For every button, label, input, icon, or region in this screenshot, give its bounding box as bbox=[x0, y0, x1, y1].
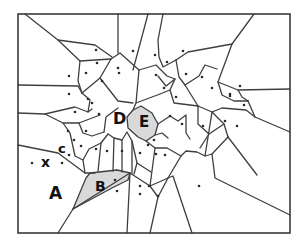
site-point bbox=[157, 195, 160, 198]
voronoi-edge bbox=[122, 132, 132, 173]
voronoi-edge bbox=[45, 114, 100, 123]
voronoi-edge bbox=[100, 78, 133, 103]
site-point bbox=[68, 93, 71, 96]
site-point bbox=[139, 193, 142, 196]
site-point bbox=[117, 67, 120, 70]
site-point bbox=[85, 130, 88, 133]
site-point bbox=[211, 87, 214, 90]
site-point bbox=[74, 111, 77, 114]
voronoi-edge bbox=[79, 123, 104, 136]
site-point bbox=[201, 76, 204, 79]
voronoi-edge bbox=[108, 134, 114, 171]
voronoi-edge bbox=[133, 14, 148, 70]
site-point bbox=[182, 50, 185, 53]
site-point bbox=[67, 130, 70, 133]
site-point bbox=[148, 185, 151, 188]
label-b: B bbox=[95, 178, 106, 194]
site-point bbox=[169, 115, 172, 118]
site-point bbox=[185, 73, 188, 76]
site-point bbox=[91, 102, 94, 105]
voronoi-edge bbox=[18, 85, 82, 93]
voronoi-edge bbox=[228, 137, 257, 175]
site-point bbox=[101, 80, 104, 83]
label-x: x bbox=[41, 154, 50, 170]
site-point bbox=[181, 123, 184, 126]
site-point bbox=[68, 154, 71, 157]
site-point bbox=[139, 152, 142, 155]
site-point bbox=[198, 185, 201, 188]
site-point bbox=[114, 179, 117, 182]
site-point bbox=[164, 154, 167, 157]
voronoi-edge bbox=[218, 44, 248, 101]
site-point bbox=[95, 148, 98, 151]
voronoi-edge bbox=[212, 154, 290, 215]
site-point bbox=[118, 72, 121, 75]
voronoi-edge bbox=[168, 176, 192, 233]
label-a: A bbox=[49, 183, 63, 203]
site-point bbox=[224, 120, 227, 123]
voronoi-edge bbox=[218, 82, 248, 101]
site-point bbox=[132, 50, 135, 53]
voronoi-edge bbox=[83, 134, 108, 160]
label-c: c bbox=[58, 141, 66, 156]
voronoi-edge bbox=[158, 14, 176, 67]
label-e: E bbox=[139, 113, 149, 131]
voronoi-edge bbox=[136, 90, 170, 103]
site-point bbox=[68, 75, 71, 78]
site-point bbox=[166, 61, 169, 64]
site-point bbox=[73, 139, 76, 142]
voronoi-edge bbox=[150, 148, 155, 186]
site-point bbox=[175, 96, 178, 99]
voronoi-edge bbox=[58, 209, 73, 233]
voronoi-edge bbox=[212, 108, 255, 117]
voronoi-edge bbox=[114, 138, 122, 172]
site-point bbox=[239, 85, 242, 88]
site-point bbox=[98, 113, 101, 116]
voronoi-edge bbox=[139, 65, 198, 106]
site-point bbox=[95, 49, 98, 52]
site-point bbox=[229, 95, 232, 98]
site-point bbox=[96, 62, 99, 65]
site-point bbox=[80, 145, 83, 148]
site-point bbox=[87, 98, 90, 101]
voronoi-edge bbox=[98, 143, 101, 171]
voronoi-edge bbox=[58, 40, 82, 93]
site-point bbox=[236, 125, 239, 128]
site-point bbox=[155, 153, 158, 156]
site-point bbox=[154, 54, 157, 57]
voronoi-edge bbox=[18, 107, 92, 114]
site-point bbox=[121, 150, 124, 153]
voronoi-edge bbox=[205, 112, 212, 156]
site-point bbox=[85, 72, 88, 75]
site-point bbox=[202, 125, 205, 128]
site-point bbox=[163, 87, 166, 90]
site-point bbox=[116, 190, 119, 193]
voronoi-diagram: ABcDEx bbox=[0, 0, 307, 249]
site-point bbox=[243, 104, 246, 107]
voronoi-edge bbox=[137, 163, 151, 172]
voronoi-edge bbox=[133, 70, 139, 110]
site-point bbox=[31, 162, 34, 165]
site-point bbox=[153, 139, 156, 142]
voronoi-edge bbox=[176, 60, 217, 85]
site-point bbox=[106, 150, 109, 153]
voronoi-edge bbox=[155, 133, 168, 138]
voronoi-edge bbox=[82, 93, 90, 112]
site-point bbox=[61, 162, 64, 165]
voronoi-edge bbox=[158, 115, 190, 139]
site-point bbox=[147, 144, 150, 147]
voronoi-edge bbox=[150, 197, 158, 233]
site-point bbox=[155, 74, 158, 77]
label-d: D bbox=[113, 109, 126, 128]
voronoi-edge bbox=[127, 173, 130, 233]
voronoi-edge bbox=[238, 89, 290, 90]
voronoi-edge bbox=[176, 14, 254, 60]
voronoi-edge bbox=[132, 141, 137, 174]
site-point bbox=[139, 185, 142, 188]
